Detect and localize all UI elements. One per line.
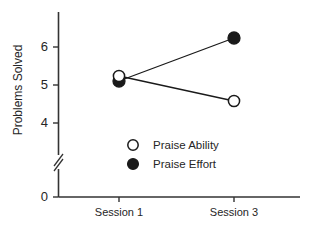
data-point-praise-effort-session3 (228, 32, 240, 44)
series-line-praise-effort (119, 38, 234, 81)
y-tick-label-0: 0 (28, 189, 48, 204)
legend-label-praise-ability: Praise Ability (153, 139, 219, 151)
data-point-praise-ability-session1 (113, 70, 124, 81)
axis-break-icon (54, 154, 63, 171)
x-tick-label-session1: Session 1 (74, 206, 164, 218)
legend-marker-open-circle-icon (128, 140, 138, 150)
chart-figure: Problems Solved 6 5 4 0 Session 1 Sessio… (0, 0, 312, 234)
y-tick-label-5: 5 (28, 77, 48, 92)
data-point-praise-ability-session3 (228, 95, 239, 106)
x-tick-label-session3: Session 3 (189, 206, 279, 218)
y-tick-label-6: 6 (28, 39, 48, 54)
series-line-praise-ability (119, 76, 234, 101)
legend-label-praise-effort: Praise Effort (153, 158, 216, 170)
y-axis-label: Problems Solved (11, 25, 25, 155)
legend-marker-filled-circle-icon (128, 159, 139, 170)
y-tick-label-4: 4 (28, 115, 48, 130)
